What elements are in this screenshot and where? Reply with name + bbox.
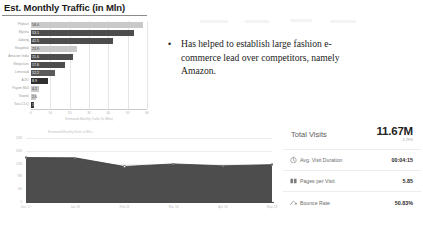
stat-total-visits-value: 11.67M xyxy=(376,125,413,137)
bounce-icon xyxy=(290,199,297,206)
bar-chart-bar: 53.1 xyxy=(31,30,147,36)
bar-chart-bar-value: 12.2 xyxy=(32,70,39,76)
area-chart-caption: Estimated Monthly Visits in Mlns xyxy=(48,130,92,134)
stat-pages-per-visit-label: Pages per Visit xyxy=(300,178,335,184)
bar-chart-bar: 17.6 xyxy=(31,62,147,68)
stat-total-visits: Total Visits 11.67M -1.79% xyxy=(283,122,421,150)
bar-chart-x-tick: 50 xyxy=(126,111,130,115)
area-chart-plot-area xyxy=(26,138,272,202)
bar-chart-bar-value: 2.6 xyxy=(32,94,37,100)
area-chart-y-tick: 20M xyxy=(0,136,22,140)
bar-chart-x-tick: 40 xyxy=(107,111,111,115)
area-chart-x-tick: Mar 18 xyxy=(169,205,179,209)
bar-chart-bar-rect xyxy=(31,22,143,28)
page-title: Est. Monthly Traffic (in Mln) xyxy=(4,2,125,13)
bar-chart-x-tick: 10 xyxy=(49,111,53,115)
bar-chart-bar: 42.5 xyxy=(31,38,147,44)
area-chart-series xyxy=(26,138,272,202)
bar-chart-axis-line xyxy=(31,109,147,110)
stat-bounce-rate-label: Bounce Rate xyxy=(300,200,330,206)
bar-chart-bar-rect xyxy=(31,38,113,44)
bar-chart-category-label: Voonik xyxy=(0,94,29,100)
bar-chart-x-tick: 20 xyxy=(68,111,72,115)
bar-chart-category-label: AJIO xyxy=(0,78,29,84)
bullet-marker-icon: • xyxy=(168,39,171,50)
bar-chart-category-label: Snapdeal xyxy=(0,46,29,52)
area-chart-data-point xyxy=(271,163,273,165)
area-chart-data-point xyxy=(222,165,224,167)
area-chart-x-tick: Apr 18 xyxy=(218,205,227,209)
traffic-stats-panel: Total Visits 11.67M -1.79% Avg. Visit Du… xyxy=(283,122,421,214)
bar-chart-category-label: Amazon India xyxy=(0,54,29,60)
clock-icon xyxy=(290,157,297,164)
bar-chart-category-label: Myntra xyxy=(0,30,29,36)
bar-chart-bar: 12.2 xyxy=(31,70,147,76)
stat-avg-visit-duration-value: 00:04:15 xyxy=(391,157,413,163)
bar-chart-category-label: Limeroad xyxy=(0,70,29,76)
bar-chart-category-label: Flipkart xyxy=(0,22,29,28)
scan-artifact xyxy=(245,20,269,23)
bar-chart-bar-value: 58.0 xyxy=(32,22,39,28)
bar-chart-plot-area: 58.053.142.523.921.617.612.28.94.22.61.3 xyxy=(31,21,147,109)
area-chart-y-tick: 12M xyxy=(0,162,22,166)
bar-chart-category-label: Shopclues xyxy=(0,62,29,68)
area-chart-baseline xyxy=(26,202,274,203)
area-chart-x-tick: Dec 17 xyxy=(21,205,31,209)
bar-chart-bar-value: 23.9 xyxy=(32,46,39,52)
area-chart-x-tick: May 18 xyxy=(267,205,277,209)
stat-bounce-rate: Bounce Rate 50.83% xyxy=(283,192,421,213)
bar-chart-x-tick: 60 xyxy=(145,111,149,115)
stat-pages-per-visit-value: 5.85 xyxy=(403,178,414,184)
area-chart-y-tick: 8M xyxy=(0,174,22,178)
stat-bounce-rate-value: 50.83% xyxy=(395,200,413,206)
area-chart-x-tick: Feb 18 xyxy=(119,205,129,209)
area-chart-data-point xyxy=(25,156,27,158)
area-chart-data-point xyxy=(172,163,174,165)
stat-total-visits-label: Total Visits xyxy=(291,130,327,139)
area-chart-data-point xyxy=(123,165,125,167)
area-chart-y-tick: 4M xyxy=(0,187,22,191)
bar-chart-bar: 4.2 xyxy=(31,86,147,92)
bar-chart-bar-value: 42.5 xyxy=(32,38,39,44)
bar-chart-bar-rect xyxy=(31,30,134,36)
bar-chart-bar: 21.6 xyxy=(31,54,147,60)
bar-chart: 58.053.142.523.921.617.612.28.94.22.61.3… xyxy=(0,18,155,130)
title-underline-rule xyxy=(2,15,147,16)
scan-artifact xyxy=(200,20,228,23)
stat-total-visits-delta: -1.79% xyxy=(402,138,413,142)
bar-chart-bar-value: 1.3 xyxy=(32,102,37,108)
area-chart: Estimated Monthly Visits in Mlns 04M8M12… xyxy=(0,130,280,220)
bar-chart-bar-value: 21.6 xyxy=(32,54,39,60)
bullet-text: Has helped to establish large fashion e-… xyxy=(181,37,348,78)
area-chart-x-tick: Jan 18 xyxy=(70,205,80,209)
bar-chart-bar: 23.9 xyxy=(31,46,147,52)
scan-artifact xyxy=(290,19,312,22)
bar-chart-bar-value: 8.9 xyxy=(32,78,37,84)
bar-chart-x-tick: 0 xyxy=(30,111,32,115)
scan-artifact xyxy=(330,20,356,23)
bar-chart-x-tick: 30 xyxy=(87,111,91,115)
area-chart-y-tick: 0 xyxy=(0,200,22,204)
bar-chart-bar: 2.6 xyxy=(31,94,147,100)
bar-chart-bar-value: 53.1 xyxy=(32,30,39,36)
bar-chart-bar: 1.3 xyxy=(31,102,147,108)
stat-avg-visit-duration-label: Avg. Visit Duration xyxy=(300,157,342,163)
bar-chart-bar: 58.0 xyxy=(31,22,147,28)
bar-chart-bar-value: 4.2 xyxy=(32,86,37,92)
bar-chart-gridline xyxy=(147,21,148,109)
bar-chart-category-label: Paytm Mall xyxy=(0,86,29,92)
bar-chart-bar-value: 17.6 xyxy=(32,62,39,68)
bar-chart-bar: 8.9 xyxy=(31,78,147,84)
pages-icon xyxy=(290,178,297,185)
bar-chart-category-label: Jabong xyxy=(0,38,29,44)
area-chart-y-tick: 16M xyxy=(0,149,22,153)
bar-chart-category-label: Tata CLiQ xyxy=(0,102,29,108)
bar-chart-x-axis-title: Estimated Monthly Traffic (in Mlns) xyxy=(31,117,147,121)
stat-pages-per-visit: Pages per Visit 5.85 xyxy=(283,171,421,192)
stat-avg-visit-duration: Avg. Visit Duration 00:04:15 xyxy=(283,150,421,171)
